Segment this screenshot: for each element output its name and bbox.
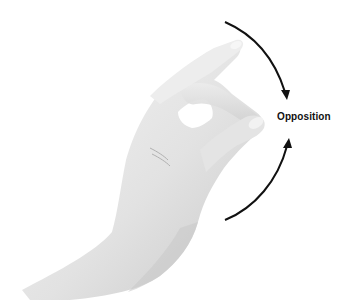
opposition-label: Opposition: [277, 111, 331, 122]
hand-palm-shape: [22, 44, 263, 300]
arrowhead-up-icon: [283, 138, 292, 148]
lower-arc-arrow: [225, 146, 287, 220]
arrowhead-down-icon: [281, 90, 290, 100]
opposition-diagram: Opposition: [0, 0, 349, 306]
hand-illustration: [0, 0, 349, 306]
